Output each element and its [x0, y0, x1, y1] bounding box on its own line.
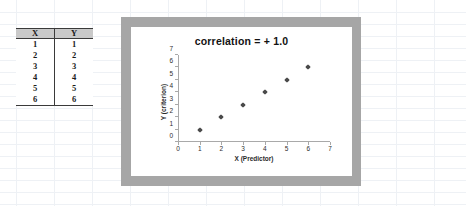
y-axis-tick-label: 0: [169, 133, 173, 139]
cell-x: 5: [16, 83, 55, 94]
table-row: 33: [16, 61, 93, 72]
table-row: 11: [16, 39, 93, 51]
y-axis-tick-label: 3: [169, 96, 173, 102]
cell-x: 3: [16, 61, 55, 72]
grid-line-vertical: [396, 0, 397, 206]
cell-x: 6: [16, 94, 55, 106]
y-axis-tick: [175, 116, 178, 117]
scatter-point: [197, 127, 203, 133]
cell-y: 4: [55, 72, 94, 83]
chart-title: correlation = + 1.0: [131, 35, 352, 47]
y-axis-tick-label: 1: [169, 121, 173, 127]
table-row: 66: [16, 94, 93, 106]
x-axis-tick-label: 3: [241, 146, 245, 152]
y-axis-tick: [175, 104, 178, 105]
grid-line-vertical: [434, 0, 435, 206]
x-axis-tick-label: 0: [176, 146, 180, 152]
y-axis-label: Y (criterion): [160, 83, 167, 119]
x-axis-label: X (Predictor): [178, 155, 330, 162]
y-axis-tick: [175, 66, 178, 67]
table-row: 55: [16, 83, 93, 94]
table-row: 22: [16, 50, 93, 61]
y-axis-tick-label: 4: [169, 83, 173, 89]
y-axis-tick: [175, 91, 178, 92]
table-row: 44: [16, 72, 93, 83]
cell-y: 2: [55, 50, 94, 61]
cell-y: 5: [55, 83, 94, 94]
cell-y: 1: [55, 39, 94, 51]
cell-y: 6: [55, 94, 94, 106]
column-header-x: X: [16, 29, 55, 39]
scatter-point: [305, 65, 311, 71]
cell-y: 3: [55, 61, 94, 72]
x-axis-line: [178, 141, 330, 142]
y-axis-tick-label: 5: [169, 71, 173, 77]
x-axis-tick-label: 4: [263, 146, 267, 152]
scatter-point: [262, 89, 268, 95]
scatter-point: [219, 114, 225, 120]
y-axis-tick-label: 2: [169, 108, 173, 114]
x-axis-tick-label: 5: [285, 146, 289, 152]
x-axis-tick-label: 6: [306, 146, 310, 152]
x-axis-tick-label: 7: [328, 146, 332, 152]
column-header-y: Y: [55, 29, 94, 39]
y-axis-line: [178, 55, 179, 142]
chart-object-frame[interactable]: correlation = + 1.0 Y (criterion) 012345…: [121, 17, 361, 186]
y-axis-tick: [175, 79, 178, 80]
y-axis-tick: [175, 129, 178, 130]
x-axis-tick-label: 2: [220, 146, 224, 152]
cell-x: 1: [16, 39, 55, 51]
data-table: X Y 112233445566: [16, 28, 93, 106]
cell-x: 2: [16, 50, 55, 61]
cell-x: 4: [16, 72, 55, 83]
scatter-plot-region: 0123456701234567: [178, 55, 330, 142]
y-axis-tick-label: 7: [169, 46, 173, 52]
x-axis-tick-label: 1: [198, 146, 202, 152]
y-axis-tick: [175, 54, 178, 55]
scatter-point: [284, 77, 290, 83]
y-axis-tick-label: 6: [169, 58, 173, 64]
table-header-row: X Y: [16, 29, 93, 39]
chart-plot-area: correlation = + 1.0 Y (criterion) 012345…: [131, 27, 352, 176]
scatter-point: [240, 102, 246, 108]
